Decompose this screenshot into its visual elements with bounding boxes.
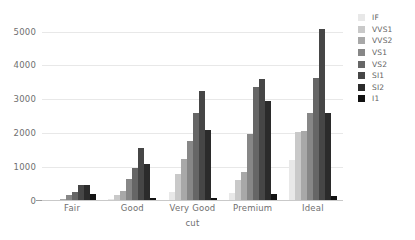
legend-label: VVS1 (372, 25, 393, 34)
x-axis-label: cut (42, 218, 343, 228)
legend-label: IF (372, 13, 379, 22)
bar-group (102, 18, 162, 201)
bar[interactable] (144, 164, 150, 201)
legend-item[interactable]: VVS2 (358, 35, 413, 47)
y-axis-tick-label: 2000 (14, 128, 36, 138)
legend: IFVVS1VVS2VS1VS2SI1SI2I1 (358, 12, 413, 105)
bar[interactable] (325, 113, 331, 201)
legend-item[interactable]: SI1 (358, 70, 413, 82)
plot-area (42, 18, 343, 201)
legend-swatch-icon (358, 26, 365, 33)
bar[interactable] (265, 101, 271, 201)
legend-swatch-icon (358, 61, 365, 68)
legend-swatch-icon (358, 95, 365, 102)
bar-groups (42, 18, 343, 201)
legend-swatch-icon (358, 37, 365, 44)
y-axis-tick-label: 4000 (14, 60, 36, 70)
y-axis-tick-label: 1000 (14, 162, 36, 172)
legend-swatch-icon (358, 84, 365, 91)
legend-label: SI2 (372, 83, 384, 92)
legend-swatch-icon (358, 72, 365, 79)
legend-label: VS1 (372, 48, 387, 57)
y-axis-tick-label: 0 (30, 196, 36, 206)
legend-item[interactable]: VS1 (358, 47, 413, 59)
legend-label: VS2 (372, 60, 387, 69)
legend-swatch-icon (358, 14, 365, 21)
bar-group (42, 18, 102, 201)
bar-group (162, 18, 222, 201)
bar[interactable] (205, 130, 211, 201)
x-axis-tick-labels: FairGoodVery GoodPremiumIdeal (42, 203, 343, 213)
legend-label: VVS2 (372, 36, 393, 45)
legend-item[interactable]: I1 (358, 93, 413, 105)
bar-chart-figure: 010002000300040005000 FairGoodVery GoodP… (0, 0, 415, 240)
legend-item[interactable]: IF (358, 12, 413, 24)
x-axis-line (42, 200, 343, 201)
y-axis: 010002000300040005000 (0, 18, 38, 201)
y-axis-tick-label: 5000 (14, 27, 36, 37)
legend-swatch-icon (358, 49, 365, 56)
x-axis-tick-label: Good (102, 203, 162, 213)
bar-group (283, 18, 343, 201)
x-axis-tick-label: Ideal (283, 203, 343, 213)
legend-item[interactable]: VVS1 (358, 24, 413, 36)
x-axis-tick-label: Fair (42, 203, 102, 213)
bar-group (223, 18, 283, 201)
legend-item[interactable]: VS2 (358, 58, 413, 70)
x-axis-tick-label: Premium (223, 203, 283, 213)
x-axis-tick-label: Very Good (162, 203, 222, 213)
zero-tick-mark (36, 200, 42, 201)
legend-label: SI1 (372, 71, 384, 80)
legend-item[interactable]: SI2 (358, 82, 413, 94)
legend-label: I1 (372, 94, 379, 103)
y-axis-tick-label: 3000 (14, 94, 36, 104)
